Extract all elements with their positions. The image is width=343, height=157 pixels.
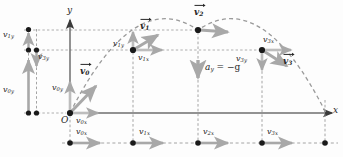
origin-label: O [61, 116, 68, 125]
label-v1-sub: 1 [145, 24, 149, 31]
arrow-v2-resultant [200, 30, 228, 32]
label-v0-sub: 0 [85, 69, 89, 76]
label-v3y-sub: 3y [241, 57, 247, 63]
label-v0y-left: v0y [3, 86, 14, 94]
dot-point-1 [130, 47, 136, 53]
label-v0y: v0y [52, 84, 63, 92]
label-acceleration-rest: = −g [214, 62, 241, 72]
dot-point-2 [195, 27, 201, 33]
label-v1-vector: v1 [140, 22, 149, 31]
label-v3y-left-sub: 3y [43, 55, 49, 61]
projectile-motion-figure: y x O v1y v3y v0y v0y v0 v0x v1y [0, 0, 343, 157]
label-acceleration: ay = −g [205, 63, 240, 72]
label-v0x-bottom-sub: 0x [81, 130, 87, 136]
arrow-v1-resultant [133, 35, 158, 50]
vector-arrow-overbar-icon [283, 52, 295, 56]
label-v0-vector: v0 [80, 67, 89, 76]
label-v3x: v3x [263, 36, 274, 44]
label-v2-sub: 2 [199, 10, 203, 17]
label-v1y-left: v1y [3, 31, 14, 39]
label-v3-vector: v3 [283, 57, 292, 66]
dot-left-a-top [26, 27, 31, 32]
label-v2x-bottom-sub: 2x [208, 130, 214, 136]
bottom-dot-4 [322, 140, 328, 146]
vector-arrow-overbar-icon [140, 17, 152, 21]
label-v3x-sub: 3x [268, 38, 274, 44]
figure-canvas [0, 0, 343, 157]
dot-point-3 [259, 47, 265, 53]
label-v0x-sub: 0x [81, 119, 87, 125]
label-v2x-bottom: v2x [203, 128, 214, 136]
label-v0y-sub: 0y [57, 86, 63, 92]
label-v2-base: v [194, 7, 199, 17]
bottom-dot-1 [130, 140, 136, 146]
dot-left-a-mid [26, 47, 31, 52]
x-axis-label: x [333, 106, 338, 115]
label-v1-base: v [140, 21, 145, 31]
droppers [70, 32, 325, 143]
vector-arrow-overbar-icon [194, 3, 206, 7]
label-v2-vector: v2 [194, 8, 203, 17]
label-v1x-bottom-sub: 1x [144, 130, 150, 136]
label-v3-sub: 3 [288, 59, 292, 66]
bottom-dot-3 [259, 140, 265, 146]
vector-arrow-overbar-icon [80, 62, 92, 66]
label-v3x-bottom: v3x [267, 128, 278, 136]
label-v1y-left-sub: 1y [8, 33, 14, 39]
dot-left-a-bottom [26, 110, 31, 115]
y-axis-label: y [67, 6, 72, 15]
label-v3x-bottom-sub: 3x [272, 130, 278, 136]
label-v0-base: v [80, 66, 85, 76]
label-v0x-bottom: v0x [76, 128, 87, 136]
label-v1y-sub: 1y [118, 42, 124, 48]
label-v1x-bottom: v1x [139, 128, 150, 136]
label-v3y-left: v3y [38, 53, 49, 61]
bottom-dot-2 [195, 140, 201, 146]
dot-left-b-bottom [34, 110, 39, 115]
label-v3-base: v [283, 56, 288, 66]
arrow-v0-resultant [70, 86, 96, 113]
label-v0x: v0x [76, 117, 87, 125]
label-v0y-left-sub: 0y [8, 88, 14, 94]
bottom-dot-0 [67, 140, 73, 146]
label-v1y: v1y [113, 40, 124, 48]
label-v1x: v1x [138, 54, 149, 62]
label-v1x-sub: 1x [143, 56, 149, 62]
